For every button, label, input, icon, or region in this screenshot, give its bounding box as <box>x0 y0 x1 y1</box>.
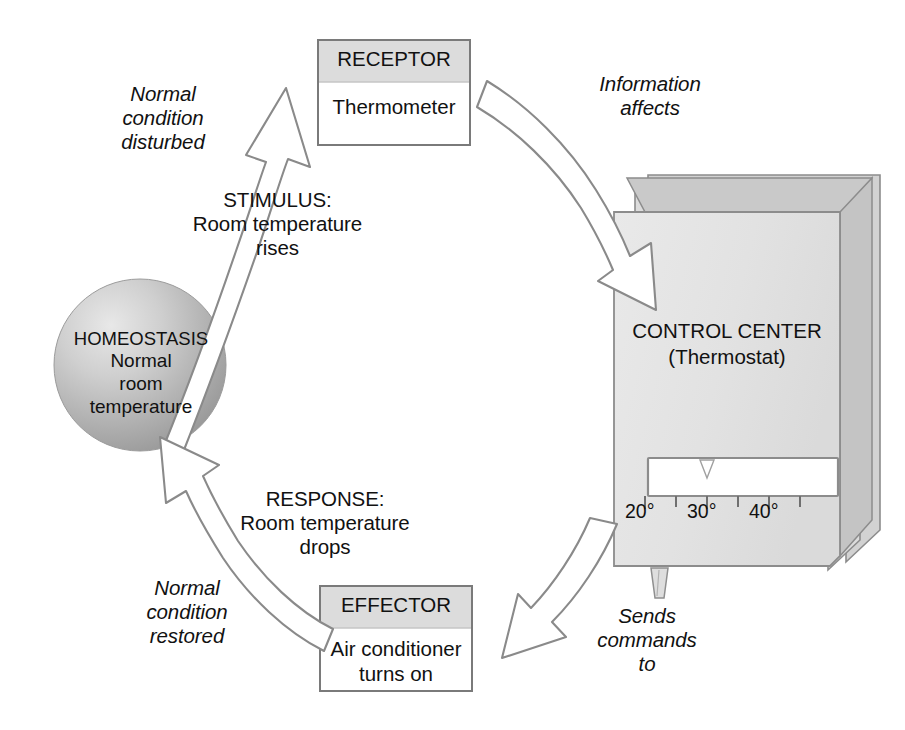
scale-tick-label-30: 30° <box>687 500 717 523</box>
diagram-canvas: HOMEOSTASIS Normal room temperature RECE… <box>0 0 905 730</box>
control-center-title: CONTROL CENTER (Thermostat) <box>612 318 842 369</box>
homeostasis-label-lines: Normal room temperature <box>55 350 227 418</box>
receptor-header-text: RECEPTOR <box>318 47 470 71</box>
arrow-label-stimulus: STIMULUS: Room temperature rises <box>170 188 385 261</box>
control-center-thermostat[interactable] <box>614 175 880 598</box>
effector-header-text: EFFECTOR <box>320 593 472 617</box>
thermostat-top-bevel <box>627 178 872 212</box>
homeostasis-label-caps: HOMEOSTASIS <box>55 328 227 350</box>
arrow-label-normal-condition-disturbed: Normal condition disturbed <box>88 82 238 155</box>
arrow-label-information-affects: Information affects <box>560 72 740 120</box>
thermostat-lever-switch[interactable] <box>651 568 668 598</box>
arrow-label-sends-commands-to: Sends commands to <box>572 604 722 677</box>
effector-body-text: Air conditioner turns on <box>308 637 484 686</box>
scale-tick-label-20: 20° <box>625 500 655 523</box>
homeostasis-label: HOMEOSTASIS Normal room temperature <box>55 328 227 419</box>
receptor-body-text: Thermometer <box>318 95 470 120</box>
thermostat-display-window <box>648 458 838 496</box>
arrow-label-response: RESPONSE: Room temperature drops <box>215 487 435 560</box>
scale-tick-label-40: 40° <box>749 500 779 523</box>
thermostat-right-bevel <box>840 178 872 556</box>
arrow-label-normal-condition-restored: Normal condition restored <box>112 576 262 649</box>
